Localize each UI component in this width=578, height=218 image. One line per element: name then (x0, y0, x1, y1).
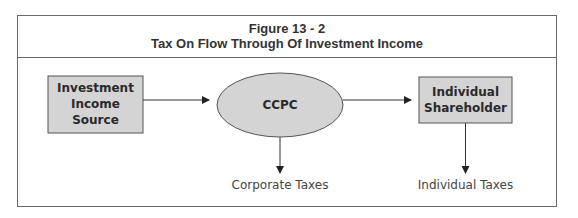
node-ccpc: CCPC (217, 73, 343, 137)
flow-diagram: Investment Income Source CCPC Individual… (0, 0, 578, 218)
node-investment-income-source: Investment Income Source (48, 76, 143, 133)
node-line: Income (71, 97, 120, 111)
node-line: Source (72, 113, 119, 127)
node-line: Shareholder (424, 101, 507, 115)
output-individual-taxes: Individual Taxes (418, 178, 513, 192)
output-corporate-taxes: Corporate Taxes (232, 178, 329, 192)
node-line: CCPC (262, 98, 297, 112)
node-line: Investment (57, 81, 134, 95)
node-line: Individual (432, 85, 499, 99)
node-individual-shareholder: Individual Shareholder (419, 77, 512, 123)
